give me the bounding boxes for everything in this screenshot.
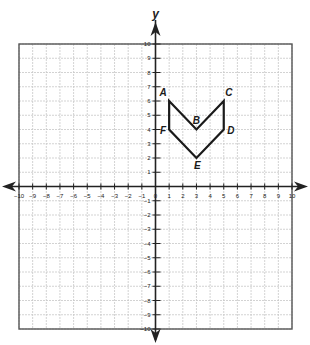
y-tick-label: −4 [144,241,152,247]
y-tick-label: −2 [144,212,152,218]
y-tick-label: 4 [147,127,151,133]
y-tick-label: −5 [144,255,152,261]
y-tick-label: −10 [140,326,151,332]
coordinate-plane: y−10−9−8−7−6−5−4−3−2−1012345678910−10−9−… [0,0,310,345]
x-tick-label: 4 [208,193,212,199]
y-tick-label: −6 [144,269,152,275]
y-tick-label: 10 [144,41,151,47]
x-tick-label: 3 [195,193,199,199]
x-tick-label: 9 [277,193,281,199]
x-tick-label: −10 [14,193,25,199]
vertex-label-f: F [160,125,167,136]
x-tick-label: 2 [181,193,185,199]
vertex-label-d: D [227,125,234,136]
y-tick-label: 2 [147,155,151,161]
x-tick-label: −8 [43,193,51,199]
y-axis-label: y [151,7,160,21]
y-tick-label: −8 [144,298,152,304]
y-tick-label: 1 [147,169,151,175]
x-tick-label: −5 [84,193,92,199]
vertex-label-c: C [225,87,233,98]
x-tick-label: −9 [29,193,37,199]
y-tick-label: −3 [144,226,152,232]
x-tick-label: −3 [111,193,119,199]
x-tick-label: 8 [263,193,267,199]
y-tick-label: −1 [144,198,152,204]
x-tick-label: 7 [249,193,253,199]
y-tick-label: 3 [147,141,151,147]
x-tick-label: 6 [236,193,240,199]
x-tick-label: 5 [222,193,226,199]
y-tick-label: 5 [147,112,151,118]
vertex-label-a: A [159,87,167,98]
y-tick-label: 6 [147,98,151,104]
x-tick-label: −2 [125,193,133,199]
x-tick-label: −6 [70,193,78,199]
y-tick-label: −9 [144,312,152,318]
y-tick-label: 8 [147,70,151,76]
vertex-label-e: E [194,160,201,171]
x-tick-label: 10 [289,193,296,199]
y-tick-label: 9 [147,55,151,61]
x-tick-label: −7 [57,193,65,199]
y-tick-label: −7 [144,283,152,289]
x-tick-label: −4 [97,193,105,199]
x-tick-label: 0 [154,193,158,199]
x-tick-label: 1 [167,193,171,199]
vertex-label-b: B [193,115,200,126]
y-tick-label: 7 [147,84,151,90]
